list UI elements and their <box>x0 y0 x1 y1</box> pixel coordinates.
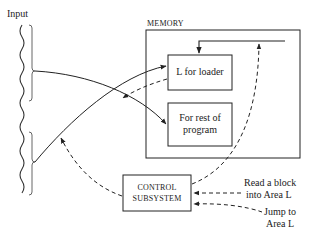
jump-line1: Jump to <box>264 206 296 218</box>
control-subsystem-label: CONTROL SUBSYSTEM <box>123 182 191 204</box>
program-box-label: For rest of program <box>168 112 232 136</box>
input-brace-lower <box>29 132 35 195</box>
jump-line2: Area L <box>264 218 296 230</box>
program-box-line1: For rest of <box>168 112 232 124</box>
loader-box-label: L for loader <box>168 66 232 78</box>
control-line2: SUBSYSTEM <box>123 193 191 204</box>
loader-signal-dashed-arrow <box>123 79 167 98</box>
control-to-input-dashed-arrow <box>61 138 122 196</box>
input-label: Input <box>7 8 28 20</box>
read-block-label: Read a block into Area L <box>244 177 296 201</box>
loader-box-text: L for loader <box>176 66 223 77</box>
program-box-line2: program <box>168 124 232 136</box>
input-brace-upper <box>29 25 35 101</box>
jump-label: Jump to Area L <box>264 206 296 230</box>
jump-dashed-arrow <box>194 204 262 212</box>
loader-return-line <box>199 41 285 53</box>
memory-box <box>146 30 300 158</box>
input-tape-wave <box>20 25 24 193</box>
control-line1: CONTROL <box>123 182 191 193</box>
read-block-line2: into Area L <box>244 189 296 201</box>
read-block-line1: Read a block <box>244 177 296 189</box>
memory-title: MEMORY <box>147 18 184 30</box>
